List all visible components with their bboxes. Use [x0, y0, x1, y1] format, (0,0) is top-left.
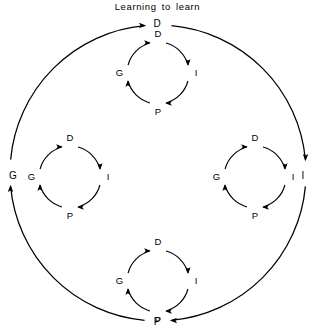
- inner-cycle-arcs: [40, 43, 285, 311]
- outer-d-label: D: [153, 18, 160, 29]
- left-p-label: P: [67, 210, 73, 221]
- top-g-label: G: [116, 67, 123, 78]
- inner-cycle-right-arc-right: [263, 185, 285, 207]
- inner-cycle-bottom-arc-top: [166, 251, 188, 273]
- right-g-label: G: [213, 171, 220, 182]
- right-d-label: D: [252, 132, 259, 143]
- inner-cycle-bottom-arc-right: [166, 289, 188, 311]
- inner-cycle-right-arc-top: [263, 147, 285, 169]
- inner-cycle-left-arc-left: [40, 147, 62, 169]
- left-p-arrowhead: [77, 205, 84, 210]
- inner-cycle-left-arc-right: [78, 185, 100, 207]
- outer-p-label: P: [154, 316, 161, 327]
- outer-cycle-arc-right: [171, 186, 305, 320]
- left-g-arrowhead: [37, 184, 42, 191]
- right-p-arrowhead: [262, 205, 269, 210]
- right-i-arrowhead: [283, 163, 288, 170]
- top-d-arrowhead: [144, 40, 151, 45]
- top-i-label: I: [195, 67, 198, 78]
- inner-cycle-right-arc-bottom: [225, 185, 247, 207]
- inner-cycle-bottom-arc-bottom: [128, 289, 150, 311]
- outer-cycle-arc-left: [11, 26, 145, 160]
- inner-cycle-arrowheads: [37, 40, 287, 313]
- top-g-arrowhead: [125, 80, 130, 87]
- left-g-label: G: [28, 171, 35, 182]
- top-d-label: D: [155, 28, 162, 39]
- outer-g-label: G: [9, 170, 17, 181]
- bottom-i-arrowhead: [186, 267, 191, 274]
- right-g-arrowhead: [222, 184, 227, 191]
- inner-cycle-top-arc-right: [166, 81, 188, 103]
- left-i-label: I: [107, 171, 110, 182]
- inner-cycle-top-arc-bottom: [128, 81, 150, 103]
- bottom-g-label: G: [116, 275, 123, 286]
- top-p-label: P: [155, 106, 161, 117]
- learning-to-learn-diagram: DIPGDIPGDIPGDIPGDIPG: [0, 0, 315, 333]
- bottom-g-arrowhead: [125, 288, 130, 295]
- left-i-arrowhead: [98, 163, 103, 170]
- top-i-arrowhead: [186, 59, 191, 66]
- left-d-label: D: [67, 132, 74, 143]
- inner-cycle-top-arc-left: [128, 43, 150, 65]
- inner-cycle-right-arc-left: [225, 147, 247, 169]
- diagram-root: Learning to learn DIPGDIPGDIPGDIPGDIPG: [0, 0, 315, 333]
- inner-cycle-left-arc-top: [78, 147, 100, 169]
- outer-i-label: I: [302, 170, 305, 181]
- inner-cycle-left-arc-bottom: [40, 185, 62, 207]
- left-d-arrowhead: [56, 144, 63, 149]
- top-p-arrowhead: [165, 101, 172, 106]
- outer-cycle-arc-bottom: [11, 186, 145, 320]
- outer-cycle-arc-top: [171, 26, 305, 160]
- bottom-d-label: D: [155, 236, 162, 247]
- bottom-p-arrowhead: [165, 309, 172, 314]
- inner-cycle-top-arc-top: [166, 43, 188, 65]
- outer-cycle-arcs: [11, 26, 306, 321]
- inner-cycle-bottom-arc-left: [128, 251, 150, 273]
- right-i-label: I: [292, 171, 295, 182]
- right-p-label: P: [252, 210, 258, 221]
- outer-cycle-arrowheads: [8, 23, 308, 323]
- bottom-i-label: I: [195, 275, 198, 286]
- bottom-d-arrowhead: [144, 248, 151, 253]
- right-d-arrowhead: [241, 144, 248, 149]
